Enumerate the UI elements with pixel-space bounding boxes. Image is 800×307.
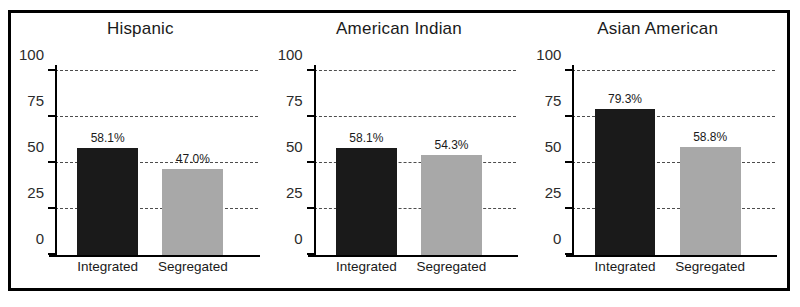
bars-container: 58.1%Integrated47.0%Segregated — [55, 71, 258, 255]
bar-group: 54.3%Segregated — [421, 71, 482, 255]
bar[interactable]: 54.3% — [421, 155, 482, 255]
bar-value-label: 58.1% — [349, 131, 383, 145]
chart-panel: Asian American025507510079.3%Integrated5… — [528, 13, 787, 288]
y-axis-tick-label: 100 — [536, 46, 561, 63]
plot-area: 025507510058.1%Integrated47.0%Segregated — [55, 71, 258, 255]
bar-value-label: 79.3% — [608, 92, 642, 106]
plot-area: 025507510058.1%Integrated54.3%Segregated — [314, 71, 517, 255]
y-axis-tick-label: 50 — [286, 138, 303, 155]
bars-container: 58.1%Integrated54.3%Segregated — [314, 71, 517, 255]
bar[interactable]: 58.1% — [336, 148, 397, 255]
y-axis-tick-label: 50 — [27, 138, 44, 155]
bar-group: 47.0%Segregated — [162, 71, 223, 255]
panel-title: Hispanic — [11, 19, 270, 39]
x-axis-tick-label: Integrated — [595, 259, 656, 274]
bar-group: 58.1%Integrated — [77, 71, 138, 255]
bar[interactable]: 58.1% — [77, 148, 138, 255]
bar[interactable]: 58.8% — [680, 147, 741, 255]
x-axis-line — [308, 255, 519, 257]
chart-panels-container: Hispanic025507510058.1%Integrated47.0%Se… — [11, 13, 787, 288]
bar-group: 58.1%Integrated — [336, 71, 397, 255]
panel-title: American Indian — [270, 19, 529, 39]
bar-group: 79.3%Integrated — [595, 71, 656, 255]
y-axis-tick-label: 75 — [286, 92, 303, 109]
y-axis-tick-label: 75 — [545, 92, 562, 109]
bar-group: 58.8%Segregated — [680, 71, 741, 255]
y-axis-tick-label: 75 — [27, 92, 44, 109]
x-axis-line — [566, 255, 777, 257]
y-axis-tick-label: 100 — [19, 46, 44, 63]
bar[interactable]: 47.0% — [162, 169, 223, 255]
x-axis-tick-label: Integrated — [77, 259, 138, 274]
y-axis-tick-label: 25 — [27, 184, 44, 201]
chart-panel: Hispanic025507510058.1%Integrated47.0%Se… — [11, 13, 270, 288]
y-axis-tick-label: 50 — [545, 138, 562, 155]
bar-value-label: 58.1% — [91, 131, 125, 145]
x-axis-tick-label: Segregated — [158, 259, 228, 274]
plot-area: 025507510079.3%Integrated58.8%Segregated — [572, 71, 775, 255]
y-axis-tick-label: 25 — [286, 184, 303, 201]
y-axis-tick-label: 0 — [553, 230, 561, 247]
bar-value-label: 58.8% — [693, 130, 727, 144]
bar[interactable]: 79.3% — [595, 109, 656, 255]
y-axis-tick-label: 0 — [36, 230, 44, 247]
chart-figure-frame: Hispanic025507510058.1%Integrated47.0%Se… — [8, 10, 790, 291]
x-axis-tick-label: Segregated — [417, 259, 487, 274]
x-axis-tick-label: Segregated — [675, 259, 745, 274]
x-axis-line — [49, 255, 260, 257]
y-axis-tick-label: 100 — [278, 46, 303, 63]
bar-value-label: 47.0% — [176, 152, 210, 166]
x-axis-tick-label: Integrated — [336, 259, 397, 274]
y-axis-tick-label: 0 — [294, 230, 302, 247]
panel-title: Asian American — [528, 19, 787, 39]
y-axis-tick-label: 25 — [545, 184, 562, 201]
chart-panel: American Indian025507510058.1%Integrated… — [270, 13, 529, 288]
bar-value-label: 54.3% — [434, 138, 468, 152]
bars-container: 79.3%Integrated58.8%Segregated — [572, 71, 775, 255]
